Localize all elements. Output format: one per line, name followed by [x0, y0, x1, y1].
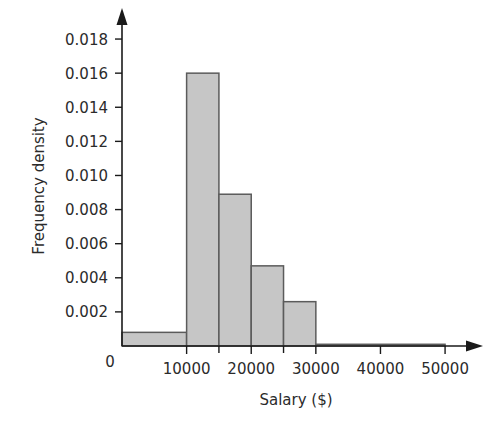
- y-tick-label: 0.016: [65, 65, 108, 83]
- x-axis-title: Salary ($): [259, 391, 332, 409]
- histogram-bar: [187, 73, 219, 346]
- y-tick-label: 0.014: [65, 99, 108, 117]
- histogram-chart: 0.0020.0040.0060.0080.0100.0120.0140.016…: [0, 0, 495, 425]
- x-tick-label: 50000: [421, 360, 469, 378]
- y-tick-label: 0.008: [65, 201, 108, 219]
- y-axis-title: Frequency density: [30, 117, 48, 254]
- y-tick-label: 0.012: [65, 133, 108, 151]
- x-tick-label: 30000: [292, 360, 340, 378]
- histogram-bar: [122, 332, 187, 346]
- origin-label: 0: [105, 353, 115, 371]
- histogram-bar: [284, 302, 316, 346]
- chart-canvas: 0.0020.0040.0060.0080.0100.0120.0140.016…: [0, 0, 495, 425]
- histogram-bar: [219, 194, 251, 346]
- y-tick-label: 0.004: [65, 269, 108, 287]
- histogram-bar: [251, 266, 283, 346]
- y-tick-label: 0.010: [65, 167, 108, 185]
- y-tick-label: 0.006: [65, 235, 108, 253]
- y-tick-label: 0.002: [65, 303, 108, 321]
- y-tick-label: 0.018: [65, 31, 108, 49]
- x-tick-label: 10000: [163, 360, 211, 378]
- x-tick-label: 20000: [227, 360, 275, 378]
- x-tick-label: 40000: [357, 360, 405, 378]
